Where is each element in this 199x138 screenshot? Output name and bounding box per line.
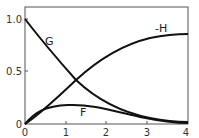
x-tick-0: 0 [22, 127, 28, 138]
y-tick-1-0: 1.0 [6, 14, 22, 25]
label-f: F [80, 106, 86, 119]
x-tick-3: 3 [144, 127, 150, 138]
x-tick-2: 2 [103, 127, 109, 138]
label-g: G [45, 35, 54, 48]
x-tick-4: 4 [183, 127, 189, 138]
x-tick-1: 1 [63, 127, 69, 138]
chart: 0 1 2 3 4 0 0.5 1.0 G -H F [0, 0, 199, 138]
label-h: -H [155, 22, 167, 35]
y-tick-0-5: 0.5 [6, 66, 22, 77]
y-tick-0: 0 [16, 119, 22, 130]
